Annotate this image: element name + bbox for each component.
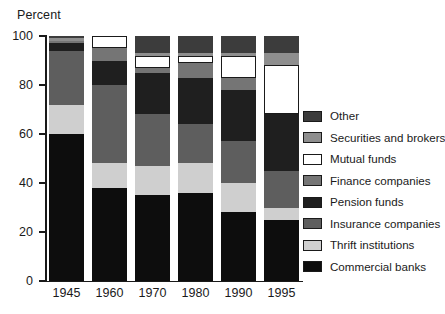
bar-column [135, 36, 170, 281]
legend-item[interactable]: Commercial banks [303, 258, 435, 280]
bar-segment [92, 48, 127, 60]
x-tick-label: 1995 [252, 286, 312, 300]
bar-column [178, 36, 213, 281]
bar-segment [264, 53, 299, 65]
legend-item[interactable]: Thrift institutions [303, 236, 435, 258]
y-tick-label: 60 [0, 127, 33, 141]
bar-segment [178, 193, 213, 281]
bar-segment [221, 90, 256, 141]
bar-segment [49, 38, 84, 40]
bar-segment [135, 53, 170, 55]
bar-segment [264, 220, 299, 281]
bar-segment [49, 43, 84, 50]
legend-swatch-icon [303, 154, 322, 165]
legend-item-label: Securities and brokers [330, 129, 445, 146]
bar-segment [221, 56, 256, 78]
legend-item-label: Thrift institutions [330, 236, 414, 253]
bar-segment [178, 63, 213, 78]
legend-item-label: Finance companies [330, 172, 431, 189]
y-tick-label: 20 [0, 225, 33, 239]
bar-segment [92, 61, 127, 86]
bar-column [221, 36, 256, 281]
chart-legend: OtherSecurities and brokersMutual fundsF… [303, 107, 435, 279]
legend-item[interactable]: Pension funds [303, 193, 435, 215]
bar-segment [135, 73, 170, 115]
legend-item-label: Pension funds [330, 193, 403, 210]
bar-segment [178, 163, 213, 192]
legend-item[interactable]: Mutual funds [303, 150, 435, 172]
legend-swatch-icon [303, 240, 322, 251]
legend-item-label: Mutual funds [330, 150, 396, 167]
bar-segment [264, 65, 299, 114]
legend-swatch-icon [303, 218, 322, 229]
bar-segment [264, 114, 299, 170]
bar-segment [221, 212, 256, 281]
bar-segment [92, 188, 127, 281]
bar-column [92, 36, 127, 281]
bar-segment [135, 68, 170, 73]
bar-column [264, 36, 299, 281]
y-tick-label: 100 [0, 29, 33, 43]
bar-segment [135, 166, 170, 195]
legend-item-label: Insurance companies [330, 215, 440, 232]
y-tick-label: 0 [0, 274, 33, 288]
bar-segment [264, 36, 299, 53]
legend-swatch-icon [303, 197, 322, 208]
legend-item[interactable]: Securities and brokers [303, 129, 435, 151]
y-axis-title: Percent [17, 8, 61, 22]
bar-segment [264, 208, 299, 220]
bar-segment [49, 36, 84, 38]
bar-segment [178, 78, 213, 125]
legend-item-label: Other [330, 107, 359, 124]
bar-segment [178, 124, 213, 163]
legend-item-label: Commercial banks [330, 258, 426, 275]
bar-segment [92, 85, 127, 163]
legend-swatch-icon [303, 261, 322, 272]
bar-segment [49, 51, 84, 105]
bar-segment [221, 183, 256, 212]
legend-item[interactable]: Insurance companies [303, 215, 435, 237]
bar-segment [135, 114, 170, 165]
plot-area [45, 36, 302, 281]
bar-segment [221, 53, 256, 55]
bar-segment [135, 56, 170, 68]
legend-swatch-icon [303, 111, 322, 122]
legend-item[interactable]: Other [303, 107, 435, 129]
bar-segment [135, 36, 170, 53]
legend-swatch-icon [303, 175, 322, 186]
bar-segment [178, 56, 213, 63]
y-tick-label: 80 [0, 78, 33, 92]
legend-item[interactable]: Finance companies [303, 172, 435, 194]
legend-swatch-icon [303, 132, 322, 143]
bar-segment [264, 171, 299, 208]
bar-segment [178, 53, 213, 55]
bar-segment [221, 36, 256, 53]
bar-segment [135, 195, 170, 281]
bar-column [49, 36, 84, 281]
bar-segment [92, 163, 127, 188]
bar-segment [221, 78, 256, 90]
y-tick-label: 40 [0, 176, 33, 190]
bar-segment [178, 36, 213, 53]
bar-segment [49, 41, 84, 43]
bar-segment [92, 36, 127, 48]
bar-segment [49, 105, 84, 134]
bar-segment [49, 134, 84, 281]
bar-segment [221, 141, 256, 183]
